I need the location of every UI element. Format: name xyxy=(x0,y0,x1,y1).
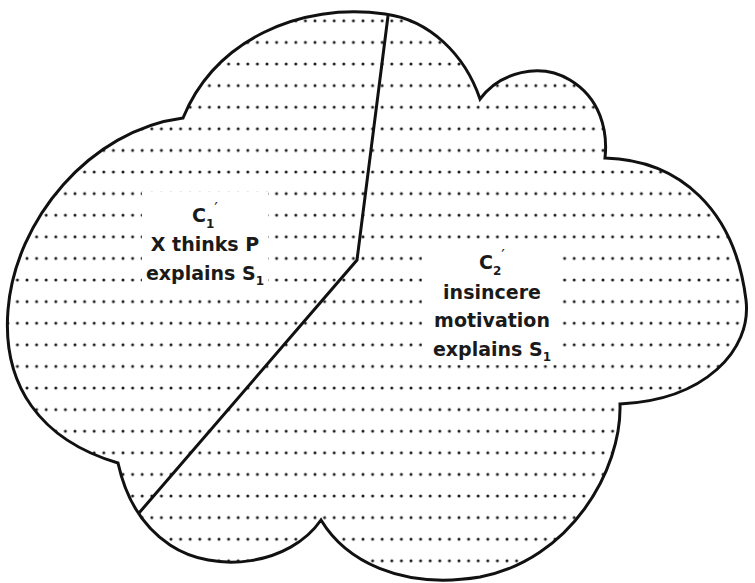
c2-line-1: insincere xyxy=(443,281,541,303)
c2-line-2: motivation xyxy=(434,309,550,331)
cloud-diagram: C1′ X thinks P explains S1 C2′ insincere… xyxy=(0,0,755,583)
c1-line-1: X thinks P xyxy=(151,233,259,255)
